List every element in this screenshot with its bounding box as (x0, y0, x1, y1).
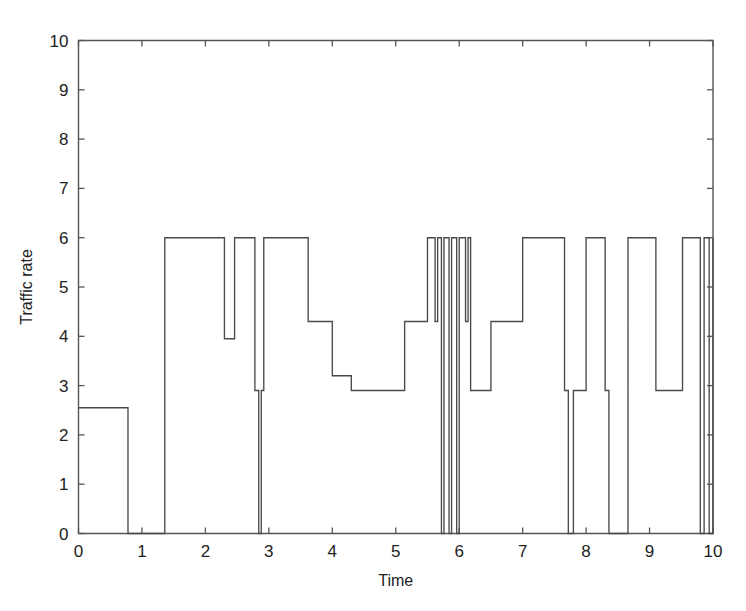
y-tick-label: 7 (59, 179, 68, 198)
x-tick-label: 9 (645, 542, 654, 561)
x-tick-label: 7 (518, 542, 527, 561)
y-tick-label: 2 (59, 426, 68, 445)
x-tick-label: 10 (704, 542, 723, 561)
y-tick-label: 8 (59, 130, 68, 149)
x-tick-label: 3 (264, 542, 273, 561)
step-plot: 012345678910 012345678910 Time Traffic r… (0, 0, 746, 611)
y-tick-label: 4 (59, 327, 68, 346)
x-tick-label: 2 (201, 542, 210, 561)
y-axis-title: Traffic rate (18, 249, 35, 325)
x-tick-label: 5 (391, 542, 400, 561)
x-tick-label: 1 (137, 542, 146, 561)
y-tick-label: 10 (50, 32, 69, 51)
x-axis-ticks (79, 41, 714, 534)
y-tick-label: 3 (59, 377, 68, 396)
y-tick-label: 5 (59, 278, 68, 297)
x-tick-label: 4 (328, 542, 337, 561)
figure-container: 012345678910 012345678910 Time Traffic r… (0, 0, 746, 611)
traffic-rate-step-line (79, 238, 714, 534)
x-tick-label: 8 (581, 542, 590, 561)
y-tick-label: 6 (59, 229, 68, 248)
y-axis-ticks (79, 41, 714, 534)
x-axis-title: Time (378, 572, 413, 589)
y-tick-label: 0 (59, 525, 68, 544)
x-axis-tick-labels: 012345678910 (74, 542, 723, 561)
y-tick-label: 9 (59, 81, 68, 100)
y-tick-label: 1 (59, 475, 68, 494)
x-tick-label: 0 (74, 542, 83, 561)
x-tick-label: 6 (454, 542, 463, 561)
plot-axes-box (79, 41, 714, 534)
y-axis-tick-labels: 012345678910 (50, 32, 69, 544)
